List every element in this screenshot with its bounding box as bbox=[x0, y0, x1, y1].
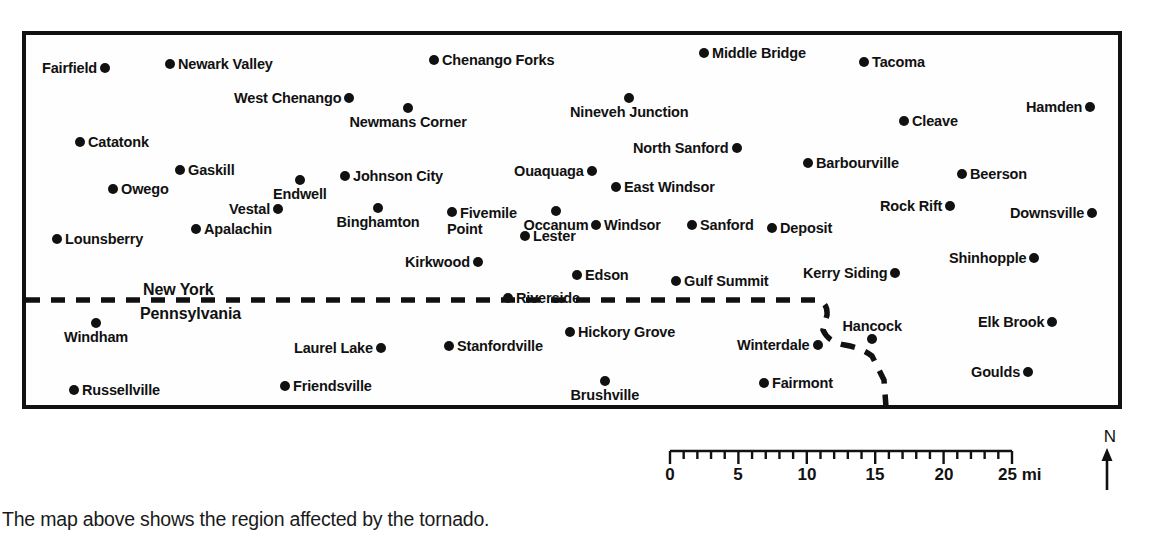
city-label: Russellville bbox=[82, 382, 160, 398]
city-label: Tacoma bbox=[872, 54, 925, 70]
city-label: Fairmont bbox=[772, 375, 833, 391]
city-label: Laurel Lake bbox=[294, 340, 373, 356]
city-marker: Hickory Grove bbox=[565, 325, 675, 341]
city-dot-icon bbox=[376, 343, 386, 353]
city-marker: Catatonk bbox=[75, 135, 149, 151]
city-dot-icon bbox=[175, 165, 185, 175]
city-dot-icon bbox=[732, 143, 742, 153]
city-label: Binghamton bbox=[337, 215, 420, 230]
city-marker: Shinhopple bbox=[949, 251, 1039, 267]
city-dot-icon bbox=[759, 378, 769, 388]
compass-north-label: N bbox=[1090, 428, 1130, 445]
city-dot-icon bbox=[273, 204, 283, 214]
city-marker: Fairmont bbox=[759, 376, 833, 392]
city-label: Johnson City bbox=[353, 168, 443, 184]
city-marker: Owego bbox=[108, 182, 169, 198]
city-label: Newark Valley bbox=[178, 56, 273, 72]
city-marker: Newark Valley bbox=[165, 57, 273, 73]
city-dot-icon bbox=[191, 224, 201, 234]
city-label: East Windsor bbox=[624, 179, 715, 195]
city-label: West Chenango bbox=[234, 90, 341, 106]
city-dot-icon bbox=[890, 268, 900, 278]
city-dot-icon bbox=[52, 234, 62, 244]
city-label: Riverside bbox=[516, 290, 580, 306]
city-dot-icon bbox=[473, 257, 483, 267]
city-label: Sanford bbox=[700, 217, 754, 233]
city-label: Apalachin bbox=[204, 221, 272, 237]
city-marker: FivemilePoint bbox=[447, 205, 517, 236]
city-label: Vestal bbox=[229, 201, 270, 217]
city-dot-icon bbox=[867, 334, 877, 344]
city-marker: Apalachin bbox=[191, 222, 272, 238]
city-dot-icon bbox=[565, 327, 575, 337]
city-dot-icon bbox=[165, 59, 175, 69]
city-dot-icon bbox=[108, 184, 118, 194]
city-marker: Hancock bbox=[843, 319, 902, 345]
city-label: Lester bbox=[533, 228, 576, 244]
city-marker: Lester bbox=[520, 229, 576, 245]
state-label-new-york: New York bbox=[143, 281, 214, 299]
city-dot-icon bbox=[859, 57, 869, 67]
city-label: Nineveh Junction bbox=[570, 105, 688, 120]
city-marker: East Windsor bbox=[611, 180, 715, 196]
city-marker: Sanford bbox=[687, 218, 754, 234]
city-label: Kerry Siding bbox=[803, 265, 887, 281]
city-dot-icon bbox=[591, 220, 601, 230]
city-label: Rock Rift bbox=[880, 198, 942, 214]
city-marker: Riverside bbox=[503, 291, 580, 307]
city-marker: Fairfield bbox=[42, 61, 110, 77]
city-label: Cleave bbox=[912, 113, 958, 129]
city-label: Endwell bbox=[273, 187, 327, 202]
city-marker: Ouaquaga bbox=[514, 164, 597, 180]
city-dot-icon bbox=[699, 48, 709, 58]
city-dot-icon bbox=[945, 201, 955, 211]
scale-tick-label: 5 bbox=[733, 465, 742, 485]
city-marker: Windham bbox=[64, 319, 128, 345]
city-label: Chenango Forks bbox=[442, 52, 554, 68]
city-label: Fairfield bbox=[42, 60, 97, 76]
city-marker: Kerry Siding bbox=[803, 266, 900, 282]
city-dot-icon bbox=[503, 293, 513, 303]
city-dot-icon bbox=[429, 55, 439, 65]
city-dot-icon bbox=[69, 385, 79, 395]
city-dot-icon bbox=[551, 206, 561, 216]
city-label: Beerson bbox=[970, 166, 1027, 182]
city-label: Middle Bridge bbox=[712, 45, 806, 61]
city-marker: Endwell bbox=[273, 176, 327, 202]
city-marker: Chenango Forks bbox=[429, 53, 554, 69]
city-marker: Johnson City bbox=[340, 169, 443, 185]
city-label: North Sanford bbox=[633, 140, 729, 156]
city-label: Ouaquaga bbox=[514, 163, 584, 179]
city-label: Windham bbox=[64, 330, 128, 345]
city-marker: Edson bbox=[572, 268, 629, 284]
city-marker: Windsor bbox=[591, 218, 661, 234]
city-label: Winterdale bbox=[737, 337, 810, 353]
scale-bar-labels: 0 5 10 15 20 25 mi bbox=[640, 463, 1060, 487]
scale-unit-label: 25 mi bbox=[998, 465, 1041, 485]
city-dot-icon bbox=[1087, 208, 1097, 218]
city-dot-icon bbox=[687, 220, 697, 230]
city-label: Shinhopple bbox=[949, 250, 1026, 266]
scale-tick-label: 10 bbox=[798, 465, 817, 485]
city-dot-icon bbox=[1029, 253, 1039, 263]
city-label: Gulf Summit bbox=[684, 273, 769, 289]
city-dot-icon bbox=[600, 376, 610, 386]
city-label: Lounsberry bbox=[65, 231, 143, 247]
scale-tick-label: 0 bbox=[665, 465, 674, 485]
city-marker: Downsville bbox=[1010, 206, 1097, 222]
city-dot-icon bbox=[899, 116, 909, 126]
city-label: Hickory Grove bbox=[578, 324, 675, 340]
city-marker: Newmans Corner bbox=[350, 104, 467, 130]
city-label: Goulds bbox=[971, 364, 1020, 380]
compass-rose: N bbox=[1090, 428, 1130, 490]
city-label: Owego bbox=[121, 181, 169, 197]
city-label: Friendsville bbox=[293, 378, 372, 394]
city-dot-icon bbox=[344, 93, 354, 103]
city-label: Hancock bbox=[843, 319, 902, 334]
city-marker: North Sanford bbox=[633, 141, 742, 157]
city-marker: Brushville bbox=[571, 377, 640, 403]
city-dot-icon bbox=[587, 166, 597, 176]
city-label: Elk Brook bbox=[978, 314, 1044, 330]
scale-tick-label: 20 bbox=[935, 465, 954, 485]
city-dot-icon bbox=[671, 276, 681, 286]
